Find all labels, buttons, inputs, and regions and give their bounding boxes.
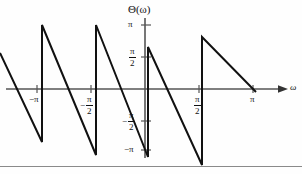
frac-numerator: π (194, 95, 201, 104)
y-axis (141, 18, 151, 158)
y-tick-label-neg-pi: −π (124, 145, 134, 154)
y-tick-label-pi-over-2: π 2 (129, 47, 136, 68)
x-tick-label-neg-pi: −π (29, 95, 39, 104)
frac-denominator: 2 (128, 123, 135, 132)
plot-title: Θ(ω) (128, 4, 151, 15)
y-tick-label-neg-pi-over-2: − π 2 (122, 111, 135, 132)
phase-spectrum-plot (0, 0, 302, 174)
frac-denominator: 2 (86, 107, 93, 116)
bottom-divider (0, 166, 302, 167)
y-tick-label-pi: π (128, 20, 133, 29)
frac-numerator: π (128, 111, 135, 120)
x-tick-label-pi: π (250, 95, 255, 104)
figure-container: Θ(ω) ω π π 2 − π 2 −π −π − π (0, 0, 302, 174)
x-tick-label-neg-pi-over-2: − π 2 (80, 95, 93, 116)
frac-sign: − (122, 117, 127, 126)
frac-denominator: 2 (129, 59, 136, 68)
frac-sign: − (80, 101, 85, 110)
frac-numerator: π (86, 95, 93, 104)
x-axis-label: ω (290, 83, 296, 92)
x-axis-arrowhead (278, 85, 288, 93)
x-tick-label-pi-over-2: π 2 (194, 95, 201, 116)
frac-numerator: π (129, 47, 136, 56)
frac-denominator: 2 (194, 107, 201, 116)
